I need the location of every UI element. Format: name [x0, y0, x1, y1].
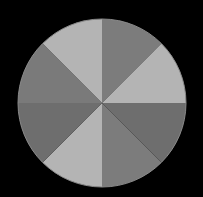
eight-sector-wheel	[0, 0, 203, 197]
